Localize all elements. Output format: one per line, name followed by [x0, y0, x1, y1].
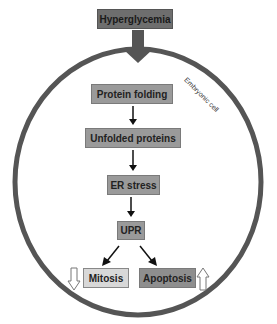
arrow-down-right-icon: [140, 246, 157, 266]
arrow-down-icon: [127, 197, 135, 217]
arrow-down-icon: [129, 150, 137, 171]
arrow-down-left-icon: [102, 246, 119, 266]
er-stress-box: ER stress: [107, 175, 160, 195]
upr-box: UPR: [117, 221, 145, 240]
mitosis-box: Mitosis: [83, 268, 129, 288]
hyperglycemia-box: Hyperglycemia: [97, 9, 173, 29]
unfolded-proteins-box: Unfolded proteins: [85, 128, 181, 148]
thick-down-arrow-icon: [124, 30, 152, 63]
protein-folding-box: Protein folding: [91, 84, 173, 104]
up-outline-arrow-icon: [197, 268, 209, 290]
arrow-down-icon: [129, 106, 137, 125]
apoptosis-box: Apoptosis: [139, 268, 196, 288]
down-outline-arrow-icon: [68, 268, 80, 290]
